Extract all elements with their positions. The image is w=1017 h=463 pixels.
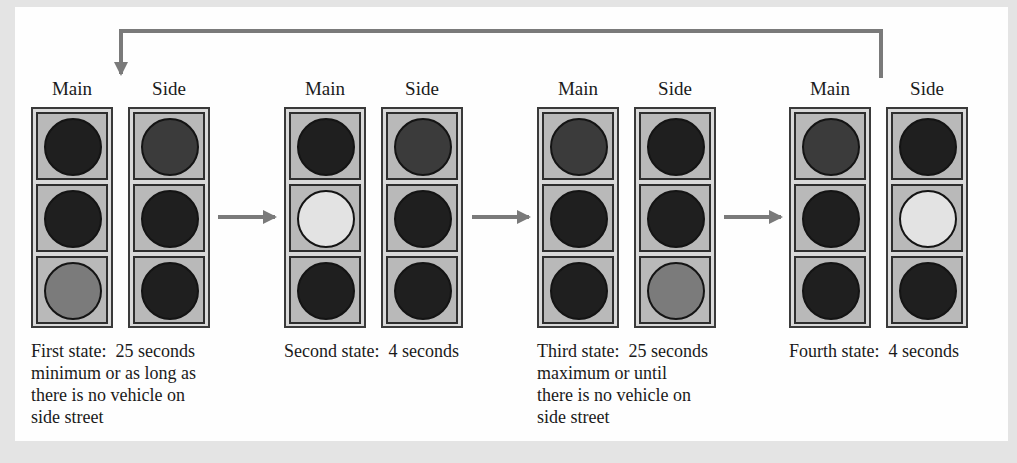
state-caption: First state: 25 seconds minimum or as lo… <box>31 340 196 428</box>
yellow-lamp-icon <box>899 190 957 248</box>
side-traffic-light <box>381 107 463 328</box>
red-lamp-icon <box>647 118 705 176</box>
main-traffic-light <box>537 107 619 328</box>
green-lamp-cell <box>36 256 108 324</box>
yellow-lamp-icon <box>394 190 452 248</box>
green-lamp-icon <box>394 262 452 320</box>
green-lamp-cell <box>639 256 711 324</box>
red-lamp-icon <box>394 118 452 176</box>
red-lamp-cell <box>36 112 108 180</box>
green-lamp-icon <box>141 262 199 320</box>
red-lamp-cell <box>794 112 866 180</box>
yellow-lamp-cell <box>639 184 711 252</box>
red-lamp-cell <box>891 112 963 180</box>
green-lamp-cell <box>542 256 614 324</box>
side-street-label: Side <box>634 77 716 101</box>
main-street-label: Main <box>284 77 366 101</box>
red-lamp-icon <box>297 118 355 176</box>
red-lamp-icon <box>802 118 860 176</box>
yellow-lamp-cell <box>36 184 108 252</box>
side-traffic-light <box>128 107 210 328</box>
red-lamp-icon <box>550 118 608 176</box>
side-street-label: Side <box>381 77 463 101</box>
main-traffic-light <box>31 107 113 328</box>
side-traffic-light <box>886 107 968 328</box>
side-street-label: Side <box>128 77 210 101</box>
main-street-label: Main <box>31 77 113 101</box>
green-lamp-cell <box>794 256 866 324</box>
yellow-lamp-icon <box>44 190 102 248</box>
green-lamp-icon <box>802 262 860 320</box>
red-lamp-icon <box>44 118 102 176</box>
green-lamp-cell <box>133 256 205 324</box>
yellow-lamp-cell <box>542 184 614 252</box>
yellow-lamp-icon <box>550 190 608 248</box>
red-lamp-icon <box>141 118 199 176</box>
green-lamp-cell <box>386 256 458 324</box>
main-traffic-light <box>789 107 871 328</box>
yellow-lamp-cell <box>133 184 205 252</box>
green-lamp-icon <box>550 262 608 320</box>
side-traffic-light <box>634 107 716 328</box>
side-street-label: Side <box>886 77 968 101</box>
green-lamp-icon <box>899 262 957 320</box>
red-lamp-cell <box>133 112 205 180</box>
yellow-lamp-icon <box>297 190 355 248</box>
green-lamp-cell <box>289 256 361 324</box>
main-street-label: Main <box>789 77 871 101</box>
yellow-lamp-icon <box>141 190 199 248</box>
yellow-lamp-cell <box>386 184 458 252</box>
yellow-lamp-icon <box>647 190 705 248</box>
state-caption: Fourth state: 4 seconds <box>789 340 959 362</box>
red-lamp-cell <box>386 112 458 180</box>
state-caption: Third state: 25 seconds maximum or until… <box>537 340 708 428</box>
red-lamp-cell <box>289 112 361 180</box>
yellow-lamp-cell <box>794 184 866 252</box>
green-lamp-icon <box>297 262 355 320</box>
yellow-lamp-cell <box>891 184 963 252</box>
yellow-lamp-icon <box>802 190 860 248</box>
red-lamp-cell <box>639 112 711 180</box>
yellow-lamp-cell <box>289 184 361 252</box>
main-street-label: Main <box>537 77 619 101</box>
green-lamp-icon <box>647 262 705 320</box>
state-caption: Second state: 4 seconds <box>284 340 459 362</box>
main-traffic-light <box>284 107 366 328</box>
feedback-loop-arrow-icon <box>121 31 881 78</box>
red-lamp-icon <box>899 118 957 176</box>
red-lamp-cell <box>542 112 614 180</box>
green-lamp-icon <box>44 262 102 320</box>
green-lamp-cell <box>891 256 963 324</box>
